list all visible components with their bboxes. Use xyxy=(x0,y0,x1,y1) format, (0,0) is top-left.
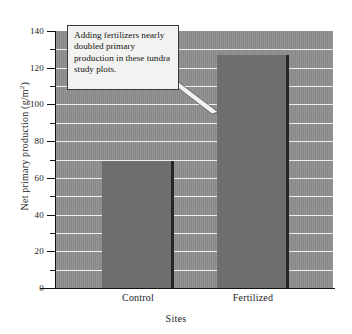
y-tick-minor xyxy=(50,270,55,271)
gridline xyxy=(56,123,333,124)
x-tick-label-control: Control xyxy=(88,292,188,303)
bar-fertilized xyxy=(217,55,289,288)
chart-figure: 020406080100120140 ControlFertilized Net… xyxy=(0,0,352,334)
gridline xyxy=(56,215,333,216)
y-tick-minor xyxy=(50,49,55,50)
y-tick-label: 80 xyxy=(35,137,44,146)
y-axis-title-text: Net primary production (g/m xyxy=(19,89,30,210)
x-axis-line xyxy=(40,288,335,289)
y-tick-label: 0 xyxy=(39,284,44,293)
y-axis-title-superscript: 2 xyxy=(18,85,26,89)
gridline xyxy=(56,141,333,142)
y-tick-major xyxy=(47,288,55,289)
y-axis-title: Net primary production (g/m2) xyxy=(18,36,30,256)
y-tick-major xyxy=(47,251,55,252)
gridline xyxy=(56,270,333,271)
y-tick-minor xyxy=(50,160,55,161)
y-tick-major xyxy=(47,178,55,179)
x-tick-label-fertilized: Fertilized xyxy=(203,292,303,303)
y-tick-minor xyxy=(50,233,55,234)
annotation-callout: Adding fertilizers nearly doubled primar… xyxy=(67,25,179,90)
gridline xyxy=(56,233,333,234)
y-tick-label: 120 xyxy=(30,64,44,73)
y-tick-label: 20 xyxy=(35,247,44,256)
gridline xyxy=(56,178,333,179)
y-tick-major xyxy=(47,68,55,69)
y-tick-major xyxy=(47,104,55,105)
y-tick-minor xyxy=(50,123,55,124)
gridline xyxy=(56,160,333,161)
y-tick-label: 140 xyxy=(30,27,44,36)
bar-control xyxy=(102,161,174,288)
y-tick-minor xyxy=(50,86,55,87)
gridline xyxy=(56,251,333,252)
y-tick-label: 40 xyxy=(35,211,44,220)
y-axis-title-suffix: ) xyxy=(19,82,30,86)
gridline xyxy=(56,196,333,197)
y-tick-label: 60 xyxy=(35,174,44,183)
y-tick-minor xyxy=(50,196,55,197)
y-axis-line xyxy=(55,31,56,289)
y-tick-major xyxy=(47,141,55,142)
y-tick-major xyxy=(47,215,55,216)
x-axis-title: Sites xyxy=(0,313,352,324)
y-tick-label: 100 xyxy=(30,100,44,109)
y-tick-major xyxy=(47,31,55,32)
